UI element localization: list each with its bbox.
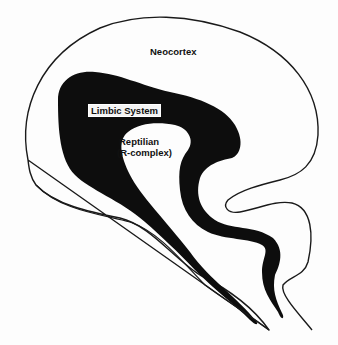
reptilian-label-line1: Reptilian xyxy=(117,136,172,147)
reptilian-label: Reptilian (R-complex) xyxy=(117,136,172,158)
neocortex-label: Neocortex xyxy=(150,46,196,57)
neocortex-outline xyxy=(26,17,318,330)
reptilian-label-line2: (R-complex) xyxy=(117,147,172,158)
limbic-system-label: Limbic System xyxy=(88,104,161,117)
